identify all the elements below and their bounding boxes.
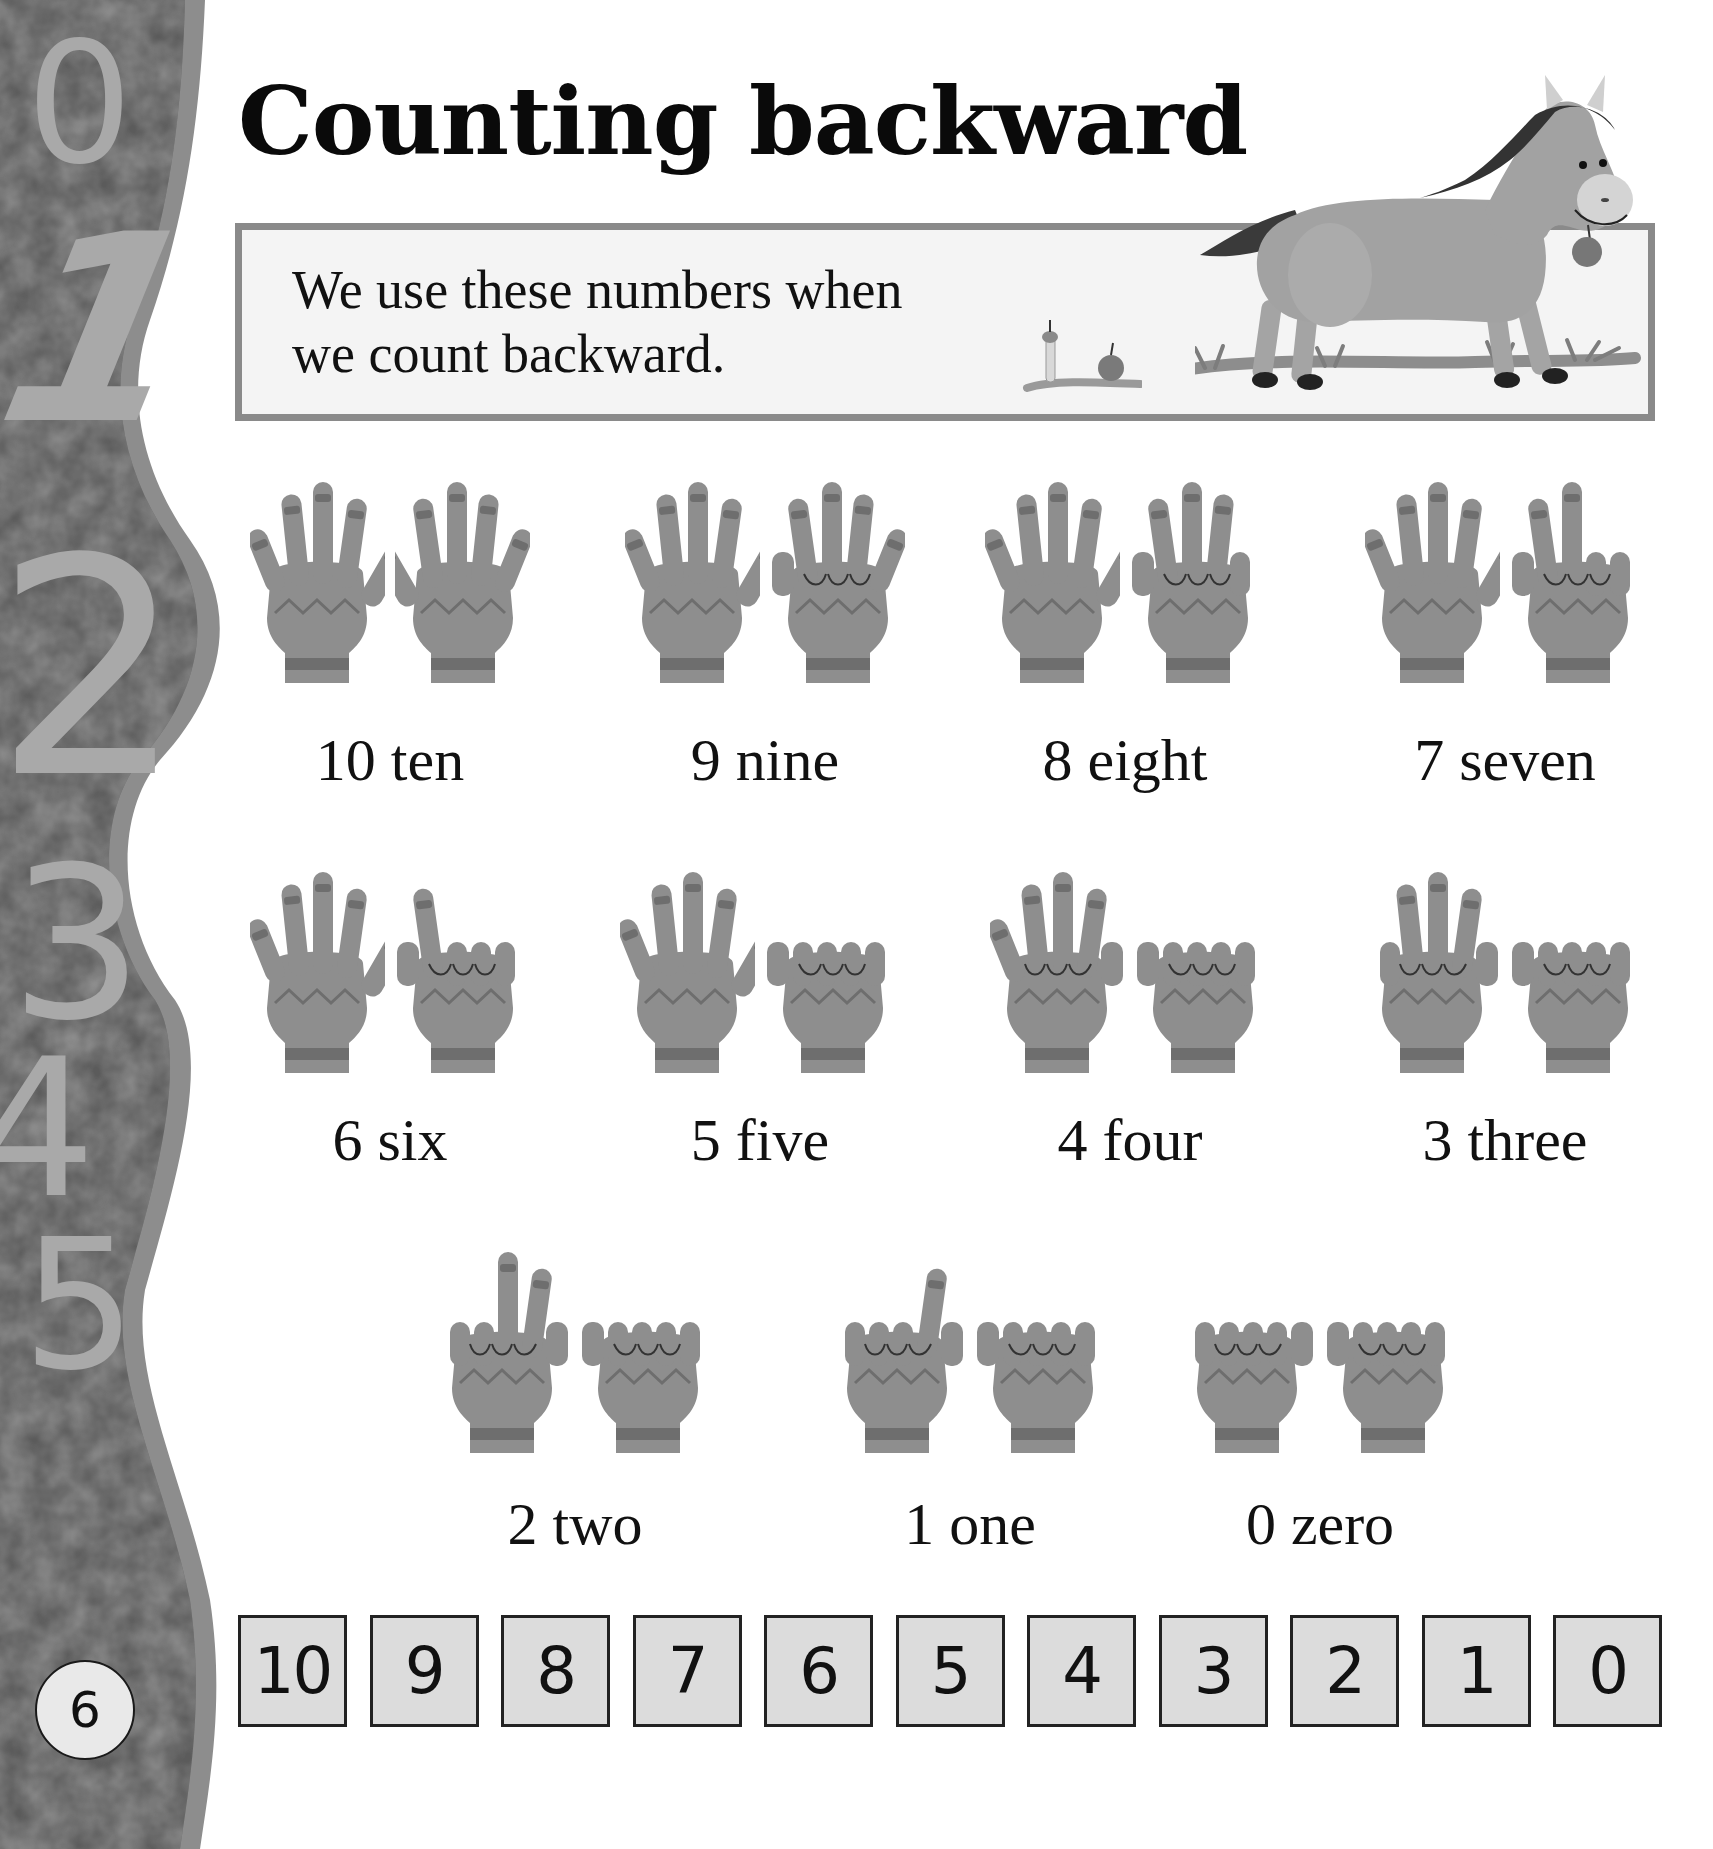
open-glove-icon — [1365, 868, 1500, 1078]
fist-glove-icon — [1180, 1248, 1315, 1458]
number-box-2: 2 — [1290, 1615, 1399, 1727]
open-glove-icon — [1510, 478, 1645, 688]
count-label-2: 2 two — [508, 1494, 643, 1554]
count-label-3: 3 three — [1423, 1110, 1588, 1170]
sidebar-digit-5: 5 — [22, 1215, 137, 1395]
page-title: Counting backward — [238, 70, 1247, 173]
page-number-badge: 6 — [35, 1660, 135, 1760]
hand-pair-5 — [620, 868, 900, 1078]
open-glove-icon — [395, 478, 530, 688]
number-box-7: 7 — [633, 1615, 742, 1727]
fist-glove-icon — [765, 868, 900, 1078]
hand-pair-10 — [250, 478, 530, 688]
fist-glove-icon — [1510, 868, 1645, 1078]
open-glove-icon — [830, 1248, 965, 1458]
horse-icon — [1195, 50, 1665, 390]
count-label-5: 5 five — [691, 1110, 829, 1170]
number-box-3: 3 — [1159, 1615, 1268, 1727]
fist-glove-icon — [1325, 1248, 1460, 1458]
horse-illustration — [1195, 50, 1665, 390]
intro-line-2: we count backward. — [292, 322, 992, 386]
number-box-6: 6 — [764, 1615, 873, 1727]
number-box-5: 5 — [896, 1615, 1005, 1727]
open-glove-icon — [620, 868, 755, 1078]
apple-icon — [1098, 355, 1124, 381]
count-label-8: 8 eight — [1043, 730, 1208, 790]
apple-in-mouth-icon — [1572, 237, 1602, 267]
open-glove-icon — [1130, 478, 1265, 688]
open-glove-icon — [985, 478, 1120, 688]
hand-pair-0 — [1180, 1248, 1460, 1458]
sidebar-digit-4: 4 — [0, 1035, 96, 1225]
open-glove-icon — [625, 478, 760, 688]
apple-core-icon — [1022, 310, 1142, 400]
hand-pair-9 — [625, 478, 905, 688]
open-glove-icon — [250, 478, 385, 688]
hand-pair-3 — [1365, 868, 1645, 1078]
count-label-9: 9 nine — [691, 730, 839, 790]
open-glove-icon — [435, 1248, 570, 1458]
fist-glove-icon — [580, 1248, 715, 1458]
hand-pair-7 — [1365, 478, 1645, 688]
number-box-9: 9 — [370, 1615, 479, 1727]
open-glove-icon — [395, 868, 530, 1078]
hand-pair-4 — [990, 868, 1270, 1078]
count-label-7: 7 seven — [1414, 730, 1596, 790]
number-box-4: 4 — [1027, 1615, 1136, 1727]
count-label-4: 4 four — [1058, 1110, 1203, 1170]
number-strip: 109876543210 — [238, 1615, 1662, 1727]
open-glove-icon — [770, 478, 905, 688]
hand-pair-8 — [985, 478, 1265, 688]
count-label-10: 10 ten — [316, 730, 464, 790]
fist-glove-icon — [975, 1248, 1110, 1458]
hand-pair-1 — [830, 1248, 1110, 1458]
number-box-8: 8 — [501, 1615, 610, 1727]
open-glove-icon — [1365, 478, 1500, 688]
intro-text: We use these numbers when we count backw… — [292, 258, 992, 386]
sidebar-digit-2: 2 — [0, 520, 185, 820]
open-glove-icon — [990, 868, 1125, 1078]
number-box-0: 0 — [1553, 1615, 1662, 1727]
sidebar-digit-0: 0 — [26, 20, 133, 188]
hand-pair-2 — [435, 1248, 715, 1458]
count-label-6: 6 six — [332, 1110, 447, 1170]
count-label-0: 0 zero — [1246, 1494, 1394, 1554]
hand-pair-6 — [250, 868, 530, 1078]
open-glove-icon — [250, 868, 385, 1078]
intro-line-1: We use these numbers when — [292, 258, 992, 322]
number-box-10: 10 — [238, 1615, 347, 1727]
page-number: 6 — [69, 1681, 101, 1739]
count-label-1: 1 one — [904, 1494, 1036, 1554]
number-box-1: 1 — [1422, 1615, 1531, 1727]
fist-glove-icon — [1135, 868, 1270, 1078]
